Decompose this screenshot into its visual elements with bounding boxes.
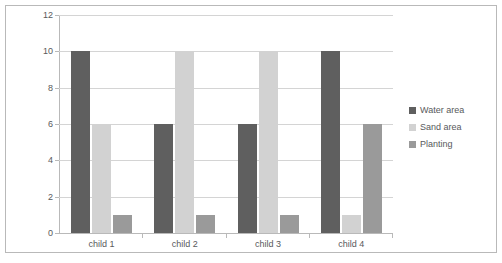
bar[interactable] [363,124,382,233]
x-axis-label-2: child 2 [143,240,226,249]
y-tick-label-4: 4 [48,156,53,165]
y-tick-mark-12 [55,15,59,16]
bar[interactable] [321,51,340,233]
bar[interactable] [342,215,361,233]
legend-label: Water area [420,106,464,115]
bar[interactable] [154,124,173,233]
legend-label: Planting [420,140,453,149]
bars-layer [60,15,393,233]
bar[interactable] [113,215,132,233]
legend-swatch-icon [409,141,416,148]
x-axis-label-3: child 3 [227,240,310,249]
x-axis-label-4: child 4 [310,240,393,249]
y-tick-label-8: 8 [48,83,53,92]
bar[interactable] [196,215,215,233]
bar[interactable] [175,51,194,233]
bar[interactable] [238,124,257,233]
x-tick-2 [143,233,226,238]
y-tick-label-10: 10 [43,47,53,56]
y-tick-mark-8 [55,88,59,89]
x-tick-1 [60,233,143,238]
bar-group-2 [143,15,226,233]
x-axis-labels: child 1child 2child 3child 4 [60,240,393,249]
bar[interactable] [280,215,299,233]
legend-item-sand-area[interactable]: Sand area [409,123,464,132]
x-axis-label-1: child 1 [60,240,143,249]
y-tick-label-12: 12 [43,11,53,20]
bar-group-3 [227,15,310,233]
chart-legend: Water areaSand areaPlanting [409,106,464,149]
bar[interactable] [71,51,90,233]
legend-swatch-icon [409,107,416,114]
x-axis-ticks [60,233,393,238]
chart-frame: 024681012 child 1child 2child 3child 4 W… [5,5,497,253]
bar-group-4 [310,15,393,233]
bar-group-1 [60,15,143,233]
y-tick-label-2: 2 [48,192,53,201]
y-tick-label-0: 0 [48,229,53,238]
legend-label: Sand area [420,123,462,132]
legend-swatch-icon [409,124,416,131]
bar[interactable] [92,124,111,233]
y-tick-mark-10 [55,51,59,52]
plot-area: 024681012 child 1child 2child 3child 4 [59,15,393,233]
x-tick-3 [227,233,310,238]
bar[interactable] [259,51,278,233]
y-tick-mark-6 [55,124,59,125]
y-tick-mark-2 [55,197,59,198]
y-tick-mark-0 [55,233,59,234]
x-tick-4 [310,233,393,238]
legend-item-planting[interactable]: Planting [409,140,464,149]
legend-item-water-area[interactable]: Water area [409,106,464,115]
y-tick-mark-4 [55,160,59,161]
y-tick-label-6: 6 [48,120,53,129]
